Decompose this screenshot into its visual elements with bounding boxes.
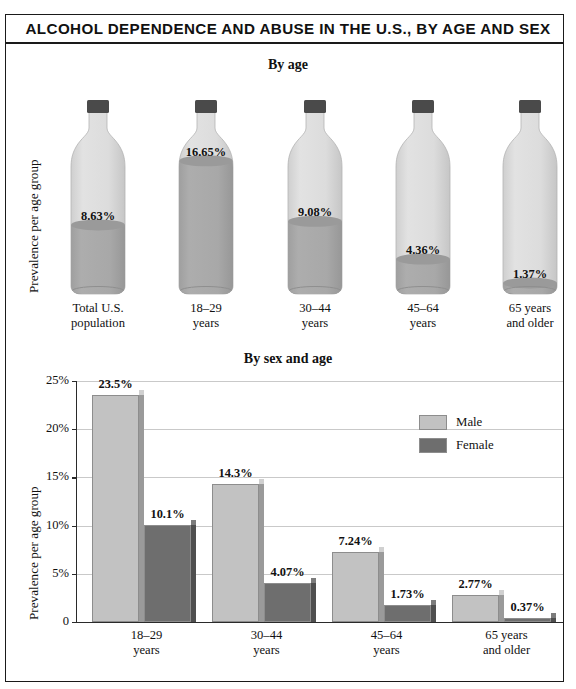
x-group-label: 65 yearsand older xyxy=(452,628,562,657)
x-group-label-line: and older xyxy=(452,643,562,658)
gridline xyxy=(77,477,563,478)
bar-value-label: 7.24% xyxy=(321,534,391,549)
x-group-label-line: 65 years xyxy=(452,628,562,643)
x-group-label-line: 30–44 xyxy=(212,628,322,643)
bar-value-label: 4.07% xyxy=(253,565,323,580)
bar-value-label: 14.3% xyxy=(201,466,271,481)
x-group-label-line: years xyxy=(212,643,322,658)
y-tick-label: 5% xyxy=(25,566,69,581)
bar-male-2[interactable] xyxy=(212,484,259,622)
x-group-label-line: 18–29 xyxy=(92,628,202,643)
bar-side-shadow xyxy=(311,583,316,622)
bar-side-shadow xyxy=(431,605,436,622)
bar-value-label: 10.1% xyxy=(133,507,203,522)
legend-label-female: Female xyxy=(456,438,494,453)
y-tick-label: 15% xyxy=(25,469,69,484)
x-group-label: 30–44years xyxy=(212,628,322,657)
bar-female-1[interactable] xyxy=(144,525,191,622)
bar-face xyxy=(384,605,431,622)
legend-swatch-female xyxy=(419,438,447,453)
bar-face xyxy=(212,484,259,622)
legend-item-male[interactable]: Male xyxy=(419,411,494,434)
bar-value-label: 1.73% xyxy=(373,587,443,602)
x-group-label-line: 45–64 xyxy=(332,628,442,643)
bar-value-label: 23.5% xyxy=(81,377,151,392)
legend-label-male: Male xyxy=(456,415,482,430)
bar-value-label: 0.37% xyxy=(493,600,563,615)
legend-item-female[interactable]: Female xyxy=(419,434,494,457)
bar-female-2[interactable] xyxy=(264,583,311,622)
y-tick-label: 20% xyxy=(25,421,69,436)
bar-face xyxy=(144,525,191,622)
bar-female-3[interactable] xyxy=(384,605,431,622)
bar-face xyxy=(264,583,311,622)
legend-swatch-male xyxy=(419,415,447,430)
bar-side-shadow xyxy=(191,525,196,622)
x-group-label: 45–64years xyxy=(332,628,442,657)
x-group-label-line: years xyxy=(332,643,442,658)
y-tick-label: 25% xyxy=(25,373,69,388)
x-group-label: 18–29years xyxy=(92,628,202,657)
bar-chart: 05%10%15%20%25%23.5%10.1%18–29years14.3%… xyxy=(0,0,576,689)
bar-chart-x-axis xyxy=(76,622,563,623)
bar-chart-y-axis xyxy=(76,381,77,623)
bar-chart-legend: Male Female xyxy=(419,411,494,457)
y-tick-label: 0 xyxy=(25,614,69,629)
x-group-label-line: years xyxy=(92,643,202,658)
bar-value-label: 2.77% xyxy=(441,577,511,592)
y-tick-label: 10% xyxy=(25,518,69,533)
